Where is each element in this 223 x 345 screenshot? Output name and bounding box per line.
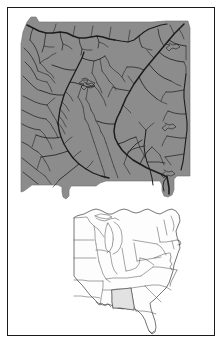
alabama-state-map xyxy=(21,17,190,199)
eastern-us-locator-inset xyxy=(74,209,181,334)
inset-alabama-highlight xyxy=(112,288,134,310)
inset-landmass-outline xyxy=(74,209,180,334)
figure-container: Alabama rivers and streams with eastern … xyxy=(0,0,223,345)
map-graphic xyxy=(0,0,223,345)
